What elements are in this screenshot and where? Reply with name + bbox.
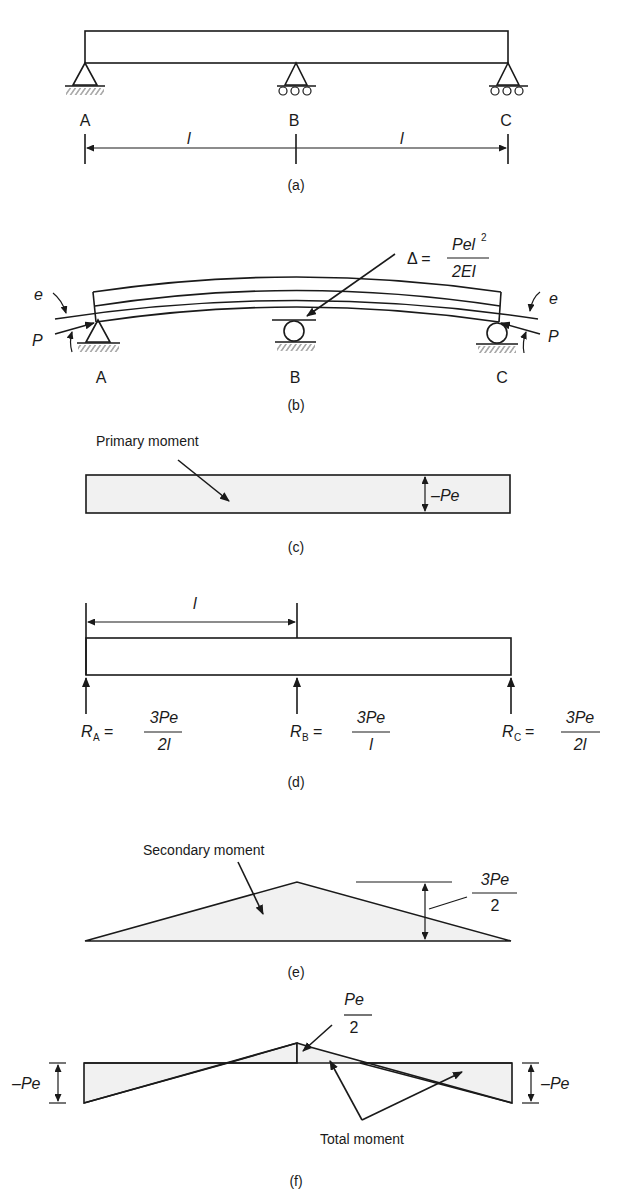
delta-symbol: Δ = — [407, 250, 431, 267]
force-label-right: P — [548, 328, 559, 345]
panel-d: l R A = 3Pe 2l R B = 3Pe l R C = 3Pe 2l — [81, 595, 600, 790]
total-moment-label: Total moment — [320, 1131, 404, 1147]
eccentricity-label-right: e — [549, 290, 558, 307]
roller-support-c — [489, 63, 528, 95]
reaction-numerator: 3Pe — [357, 709, 386, 726]
secondary-moment-label: Secondary moment — [143, 842, 265, 858]
mid-value-leader — [303, 1025, 332, 1051]
deflection-denominator: 2EI — [451, 263, 477, 280]
deflected-beam — [55, 277, 538, 322]
roller-support-c — [476, 323, 518, 353]
mid-value-denominator: 2 — [350, 1019, 359, 1036]
value-leader — [429, 897, 467, 909]
reaction-denominator: l — [369, 736, 373, 753]
deflection-numerator: Pel — [452, 236, 476, 253]
beam-diagram: A B C l l (a) — [0, 0, 626, 1194]
roller-support-b — [272, 320, 316, 351]
panel-c: Primary moment –Pe (c) — [86, 433, 510, 555]
support-label-a: A — [96, 369, 107, 386]
reaction-subscript: B — [302, 732, 309, 743]
eccentricity-arrow-left — [71, 332, 73, 352]
reaction-numerator: 3Pe — [566, 709, 595, 726]
total-moment-leader-1 — [330, 1061, 362, 1120]
reaction-subscript: A — [93, 732, 100, 743]
deflection-formula: Δ = Pel 2 2EI — [407, 232, 489, 280]
reaction-denominator: 2l — [573, 736, 587, 753]
span-dimension — [85, 134, 508, 164]
span-label-right: l — [400, 130, 404, 147]
panel-e: Secondary moment 3Pe 2 (e) — [85, 842, 517, 980]
support-label-b: B — [289, 112, 300, 129]
caption-d: (d) — [287, 774, 304, 790]
eccentricity-leader-right — [530, 292, 540, 311]
beam — [85, 31, 508, 63]
reaction-c: R C = 3Pe 2l — [502, 709, 600, 753]
left-value: –Pe — [11, 1075, 41, 1092]
deflection-exponent: 2 — [481, 232, 487, 243]
primary-moment-value: –Pe — [430, 487, 460, 504]
reaction-subscript: C — [514, 732, 521, 743]
panel-a: A B C l l (a) — [65, 31, 528, 193]
caption-c: (c) — [288, 539, 304, 555]
reaction-denominator: 2l — [157, 736, 171, 753]
force-label-left: P — [32, 332, 43, 349]
reaction-a: R A = 3Pe 2l — [81, 709, 182, 753]
right-value: –Pe — [540, 1075, 570, 1092]
reaction-symbol: R — [290, 723, 302, 740]
mid-value-numerator: Pe — [344, 991, 364, 1008]
caption-f: (f) — [289, 1173, 302, 1189]
eccentricity-leader-left — [53, 293, 66, 313]
support-label-c: C — [496, 369, 508, 386]
eccentricity-label-left: e — [34, 286, 43, 303]
pin-support-a — [77, 320, 120, 352]
beam — [86, 638, 511, 675]
force-arrow-left — [55, 323, 94, 334]
caption-a: (a) — [287, 177, 304, 193]
secondary-moment-denominator: 2 — [491, 897, 500, 914]
reaction-symbol: R — [81, 723, 93, 740]
equals: = — [525, 723, 534, 740]
span-label-left: l — [187, 130, 191, 147]
secondary-moment-diagram — [85, 882, 511, 941]
total-moment-leader-2 — [362, 1072, 462, 1120]
pin-support-a — [65, 63, 105, 95]
support-label-a: A — [80, 112, 91, 129]
caption-e: (e) — [287, 964, 304, 980]
equals: = — [313, 723, 322, 740]
eccentricity-arrow-right — [523, 332, 526, 353]
panel-f: Pe 2 Total moment –Pe –Pe (f) — [11, 991, 570, 1189]
roller-support-b — [277, 63, 316, 95]
reaction-b: R B = 3Pe l — [290, 709, 390, 753]
caption-b: (b) — [287, 397, 304, 413]
panel-b: e e P P Δ = Pel 2 2EI — [32, 232, 559, 413]
support-label-c: C — [500, 112, 512, 129]
deflection-leader — [307, 254, 395, 316]
support-label-b: B — [290, 369, 301, 386]
reaction-symbol: R — [502, 723, 514, 740]
span-label: l — [193, 595, 197, 612]
equals: = — [104, 723, 113, 740]
reaction-numerator: 3Pe — [150, 709, 179, 726]
secondary-moment-numerator: 3Pe — [481, 871, 510, 888]
primary-moment-label: Primary moment — [96, 433, 199, 449]
